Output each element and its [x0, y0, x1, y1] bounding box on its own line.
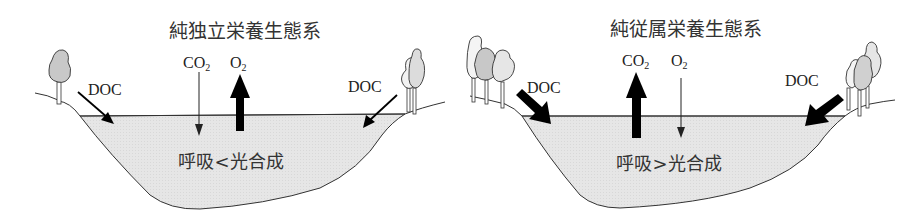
doc-label-left: DOC [527, 79, 561, 96]
tree-group-icon [467, 36, 515, 108]
o2-label: O2 [671, 52, 688, 71]
tree-group-icon [846, 42, 881, 116]
ecosystem-diagram: 純独立栄養生態系 DOC DOC [0, 0, 909, 215]
ground-left [470, 96, 522, 116]
doc-label-right: DOC [785, 72, 819, 89]
o2-label: O2 [230, 54, 247, 73]
tree-group-icon [402, 49, 425, 114]
co2-label: CO2 [622, 52, 649, 71]
panel-net-heterotrophic: 純従属栄養生態系 DOC DOC [467, 18, 895, 208]
balance-label: 呼吸>光合成 [616, 153, 721, 174]
tree-icon [49, 50, 71, 104]
o2-flux-arrow-down-icon [677, 78, 685, 138]
co2-label: CO2 [183, 54, 210, 73]
ground-right [405, 102, 445, 114]
balance-label: 呼吸<光合成 [178, 151, 283, 172]
panel-title: 純独立栄養生態系 [169, 20, 321, 42]
co2-flux-arrow-down-icon [195, 72, 203, 136]
panel-net-autotrophic: 純独立栄養生態系 DOC DOC [35, 20, 445, 209]
ground-right [845, 100, 895, 116]
doc-label-left: DOC [88, 81, 122, 98]
doc-label-right: DOC [348, 78, 382, 95]
panel-title: 純従属栄養生態系 [610, 18, 762, 40]
